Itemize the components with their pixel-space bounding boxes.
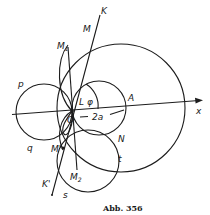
label-x: x [195, 106, 202, 116]
label-2a: 2a [92, 112, 103, 122]
label-s: s [63, 190, 68, 200]
label-m1: M1 [57, 41, 69, 52]
diagram-figure: K M M1 p L φ A O 2a x q N M' t M2 K' s A… [0, 0, 210, 215]
label-t: t [118, 154, 122, 164]
dimension-line-2a-right [110, 110, 124, 115]
x-axis-arrowhead-icon [195, 98, 203, 104]
label-m2: M2 [70, 172, 82, 183]
label-p: p [17, 79, 24, 89]
label-phi: φ [87, 97, 93, 107]
label-o: O [67, 115, 74, 125]
x-axis [12, 101, 199, 115]
origin-point [70, 109, 74, 113]
label-n: N [118, 134, 125, 144]
label-m: M [83, 24, 91, 34]
label-k-prime: K' [42, 179, 50, 189]
label-q: q [27, 143, 33, 153]
label-m-prime: M' [51, 144, 61, 154]
line-endpoint-dot [51, 194, 53, 196]
dimension-line-2a-left [80, 117, 88, 118]
figure-caption: Abb. 356 [102, 203, 143, 213]
label-l: L [79, 97, 84, 107]
label-k: K [101, 6, 108, 16]
label-a: A [127, 93, 134, 103]
m-prime-point [61, 146, 64, 149]
